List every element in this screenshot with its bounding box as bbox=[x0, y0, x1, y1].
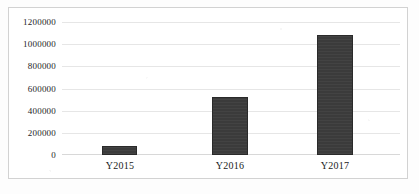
y-tick-label-400000: 400000 bbox=[28, 106, 56, 116]
bar-y2017 bbox=[317, 35, 353, 155]
bar-chart-figure: 1200000 1000000 800000 600000 400000 200… bbox=[0, 0, 419, 194]
gridline-1200000 bbox=[62, 22, 400, 23]
x-tick-label-y2017: Y2017 bbox=[321, 160, 350, 171]
y-axis-tick-labels: 1200000 1000000 800000 600000 400000 200… bbox=[8, 22, 56, 155]
y-tick-label-1000000: 1000000 bbox=[23, 39, 56, 49]
x-tick-label-y2015: Y2015 bbox=[106, 160, 135, 171]
plot-area bbox=[62, 22, 400, 155]
y-tick-label-200000: 200000 bbox=[28, 128, 56, 138]
y-tick-label-600000: 600000 bbox=[28, 84, 56, 94]
y-tick-label-0: 0 bbox=[51, 150, 56, 160]
bar-y2016 bbox=[212, 97, 248, 155]
y-tick-label-1200000: 1200000 bbox=[23, 17, 56, 27]
x-tick-label-y2016: Y2016 bbox=[216, 160, 245, 171]
y-tick-label-800000: 800000 bbox=[28, 61, 56, 71]
bar-y2015 bbox=[102, 146, 137, 155]
